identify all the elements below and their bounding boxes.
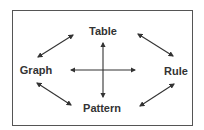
- arrow-table-rule: [138, 34, 173, 56]
- node-graph: Graph: [20, 64, 52, 76]
- arrow-graph-table: [38, 35, 73, 57]
- arrow-graph-pattern: [37, 83, 71, 105]
- node-rule: Rule: [164, 65, 188, 77]
- arrow-pattern-rule: [140, 84, 174, 106]
- node-table: Table: [89, 25, 117, 37]
- node-pattern: Pattern: [83, 102, 121, 114]
